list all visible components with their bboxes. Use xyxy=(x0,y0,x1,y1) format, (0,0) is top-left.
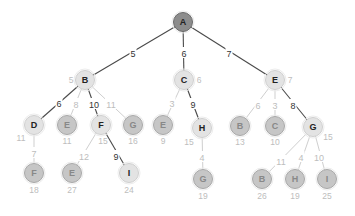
tree-node-b: B5 xyxy=(69,69,96,91)
tree-node-e: E7 xyxy=(264,69,293,91)
node-path-cost: 15 xyxy=(323,132,333,142)
node-path-cost: 15 xyxy=(184,137,194,147)
edge-weight-label: 3 xyxy=(169,99,174,109)
search-tree-diagram: 567681011396387129411410 AB5C6E7D11E11F1… xyxy=(0,0,355,216)
node-label: B xyxy=(259,174,266,184)
node-path-cost: 11 xyxy=(63,136,72,146)
tree-node-c: C10 xyxy=(264,115,286,147)
node-label: C xyxy=(272,121,279,131)
tree-node-f: F18 xyxy=(23,162,45,195)
node-label: E xyxy=(64,120,70,130)
edge-weight-label: 5 xyxy=(130,49,135,59)
node-path-cost: 15 xyxy=(98,136,108,146)
node-path-cost: 10 xyxy=(270,137,280,147)
edge-weight-label: 11 xyxy=(276,157,285,167)
node-label: I xyxy=(326,174,329,184)
node-label: I xyxy=(128,168,131,178)
tree-node-a: A xyxy=(172,11,194,33)
node-label: B xyxy=(82,75,89,85)
node-path-cost: 6 xyxy=(197,75,202,85)
edge-weight-label: 6 xyxy=(181,49,186,59)
tree-node-c: C6 xyxy=(173,69,202,91)
node-path-cost: 19 xyxy=(290,191,300,201)
tree-node-h: H15 xyxy=(184,117,213,147)
node-label: A xyxy=(180,17,187,27)
edge-weight-label: 8 xyxy=(290,101,295,111)
node-label: F xyxy=(98,120,104,130)
edge-weight-label: 8 xyxy=(73,100,78,110)
tree-node-h: H19 xyxy=(284,168,306,201)
edge-weight-label: 9 xyxy=(113,152,118,162)
edge-weight-label: 6 xyxy=(255,101,260,111)
tree-node-b: B26 xyxy=(251,168,273,201)
edge-weight-label: 10 xyxy=(89,100,99,110)
tree-node-f: F15 xyxy=(90,114,112,146)
edge-labels-layer: 567681011396387129411410 xyxy=(31,47,326,167)
node-label: G xyxy=(309,122,316,132)
node-path-cost: 13 xyxy=(235,137,245,147)
node-label: G xyxy=(129,120,136,130)
node-label: E xyxy=(69,168,75,178)
edge-weight-label: 7 xyxy=(226,49,231,59)
node-label: H xyxy=(199,123,206,133)
node-label: E xyxy=(160,120,166,130)
edge-weight-label: 10 xyxy=(314,153,324,163)
node-path-cost: 5 xyxy=(69,75,74,85)
tree-node-i: I24 xyxy=(118,162,140,195)
tree-node-i: I25 xyxy=(316,168,338,201)
tree-node-e: E11 xyxy=(56,114,78,146)
tree-node-g: G15 xyxy=(302,116,333,142)
tree-node-b: B13 xyxy=(229,115,251,147)
node-label: B xyxy=(237,121,244,131)
edge-weight-label: 11 xyxy=(106,100,115,110)
edge-weight-label: 7 xyxy=(31,149,36,159)
node-label: E xyxy=(272,75,278,85)
node-path-cost: 27 xyxy=(67,185,77,195)
node-label: H xyxy=(292,174,299,184)
node-path-cost: 18 xyxy=(29,185,39,195)
node-path-cost: 11 xyxy=(17,133,26,143)
node-path-cost: 24 xyxy=(124,185,134,195)
edge-weight-label: 4 xyxy=(199,153,204,163)
edge-weight-label: 4 xyxy=(298,153,303,163)
edge-weight-label: 9 xyxy=(190,100,195,110)
node-path-cost: 7 xyxy=(288,75,293,85)
node-label: G xyxy=(199,174,206,184)
tree-node-e: E27 xyxy=(61,162,83,195)
node-path-cost: 19 xyxy=(198,191,208,201)
tree-node-d: D11 xyxy=(17,114,45,143)
node-label: C xyxy=(181,75,188,85)
node-path-cost: 25 xyxy=(322,191,332,201)
node-label: D xyxy=(31,120,38,130)
node-path-cost: 9 xyxy=(161,136,166,146)
node-label: F xyxy=(31,168,37,178)
edge-weight-label: 12 xyxy=(79,152,89,162)
tree-canvas: 567681011396387129411410 AB5C6E7D11E11F1… xyxy=(0,0,355,216)
edge-weight-label: 6 xyxy=(56,99,61,109)
node-path-cost: 26 xyxy=(257,191,267,201)
tree-node-g: G16 xyxy=(122,114,144,146)
node-path-cost: 16 xyxy=(128,136,138,146)
tree-node-g: G19 xyxy=(192,168,214,201)
edge-weight-label: 3 xyxy=(272,101,277,111)
tree-node-e: E9 xyxy=(152,114,174,146)
